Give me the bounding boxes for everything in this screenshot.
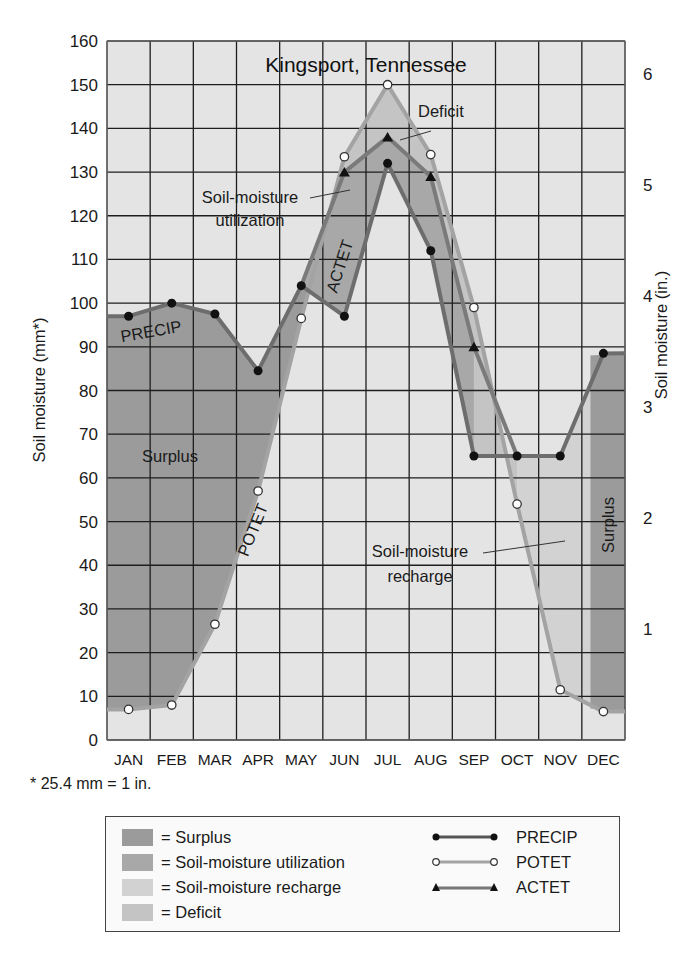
y-axis-label-left: Soil moisture (mm*) [30, 318, 48, 463]
svg-text:JUN: JUN [329, 751, 359, 768]
svg-text:140: 140 [70, 119, 98, 138]
legend-item-potet: POTET [432, 850, 571, 874]
x-axis: JANFEBMARAPRMAYJUNJULAUGSEPOCTNOVDEC [114, 751, 620, 768]
svg-text:40: 40 [79, 556, 98, 575]
svg-text:130: 130 [70, 163, 98, 182]
svg-text:110: 110 [71, 250, 98, 269]
svg-text:80: 80 [79, 382, 98, 401]
swatch-utilization [122, 854, 153, 871]
svg-text:MAY: MAY [285, 751, 317, 768]
annotation-utilization-1: Soil-moisture [202, 188, 298, 206]
actet-line-icon [432, 880, 498, 894]
legend-label-precip: PRECIP [516, 828, 577, 847]
swatch-surplus [122, 829, 153, 846]
legend-label-potet: POTET [516, 853, 571, 872]
svg-text:30: 30 [79, 600, 98, 619]
svg-text:0: 0 [89, 731, 98, 750]
swatch-recharge [122, 879, 153, 896]
legend-label-recharge: = Soil-moisture recharge [161, 878, 341, 897]
legend-label-utilization: = Soil-moisture utilization [161, 853, 345, 872]
annotation-utilization-2: utilization [216, 211, 285, 229]
legend-item-utilization: = Soil-moisture utilization [122, 850, 345, 874]
svg-text:160: 160 [70, 32, 98, 51]
water-balance-chart: 0102030405060708090100110120130140150160… [0, 0, 690, 790]
annotation-recharge-1: Soil-moisture [372, 542, 468, 560]
svg-text:DEC: DEC [587, 751, 620, 768]
legend-item-surplus: = Surplus [122, 825, 231, 849]
svg-text:50: 50 [79, 513, 98, 532]
legend-item-deficit: = Deficit [122, 900, 221, 924]
legend-item-precip: PRECIP [432, 825, 577, 849]
annotation-surplus: Surplus [142, 447, 198, 465]
svg-text:1: 1 [643, 620, 652, 639]
precip-line-icon [432, 830, 498, 844]
svg-text:100: 100 [70, 294, 98, 313]
svg-text:5: 5 [643, 176, 652, 195]
swatch-deficit [122, 904, 153, 921]
svg-text:60: 60 [79, 469, 98, 488]
svg-text:SEP: SEP [458, 751, 489, 768]
svg-text:3: 3 [643, 398, 652, 417]
svg-text:10: 10 [79, 687, 98, 706]
legend-item-recharge: = Soil-moisture recharge [122, 875, 341, 899]
svg-text:70: 70 [79, 425, 98, 444]
svg-text:20: 20 [79, 644, 98, 663]
svg-text:JUL: JUL [374, 751, 402, 768]
annotation-deficit: Deficit [418, 102, 464, 120]
chart-title: Kingsport, Tennessee [265, 53, 467, 76]
svg-text:90: 90 [79, 338, 98, 357]
legend: = Surplus = Soil-moisture utilization = … [105, 816, 620, 932]
svg-text:FEB: FEB [157, 751, 187, 768]
legend-label-actet: ACTET [516, 878, 570, 897]
svg-text:APR: APR [242, 751, 274, 768]
svg-text:JAN: JAN [114, 751, 143, 768]
y-axis-left: 0102030405060708090100110120130140150160 [70, 32, 98, 750]
annotation-surplus-dec: Surplus [599, 497, 617, 553]
potet-line-icon [432, 855, 498, 869]
svg-text:AUG: AUG [414, 751, 448, 768]
svg-text:MAR: MAR [198, 751, 232, 768]
svg-text:OCT: OCT [501, 751, 534, 768]
legend-label-surplus: = Surplus [161, 828, 231, 847]
svg-text:NOV: NOV [543, 751, 577, 768]
svg-text:120: 120 [70, 207, 98, 226]
svg-text:2: 2 [643, 509, 652, 528]
annotation-recharge-2: recharge [387, 567, 452, 585]
svg-text:150: 150 [70, 76, 98, 95]
svg-text:6: 6 [643, 65, 652, 84]
footnote: * 25.4 mm = 1 in. [30, 775, 151, 793]
legend-label-deficit: = Deficit [161, 903, 221, 922]
legend-item-actet: ACTET [432, 875, 570, 899]
y-axis-label-right: Soil moisture (in.) [652, 271, 670, 399]
